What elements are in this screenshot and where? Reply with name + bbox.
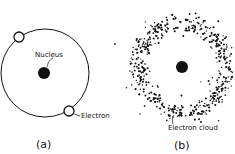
nucleus-a: [38, 67, 50, 79]
caption-a: (a): [36, 139, 51, 150]
caption-b: (b): [174, 140, 190, 151]
electron-bottom: [64, 106, 74, 116]
nucleus-leader: [47, 58, 53, 67]
electron-label: Electron: [81, 113, 110, 120]
electron-cloud: [114, 12, 235, 123]
nucleus-b: [176, 61, 188, 73]
electron-cloud-label: Electron cloud: [168, 125, 218, 132]
cloud-leader: [172, 115, 174, 124]
electron-cloud-model: [114, 12, 235, 124]
bohr-model: [1, 29, 89, 117]
electron-leader: [74, 114, 80, 116]
electron-top: [14, 32, 24, 42]
nucleus-label: Nucleus: [35, 52, 63, 59]
